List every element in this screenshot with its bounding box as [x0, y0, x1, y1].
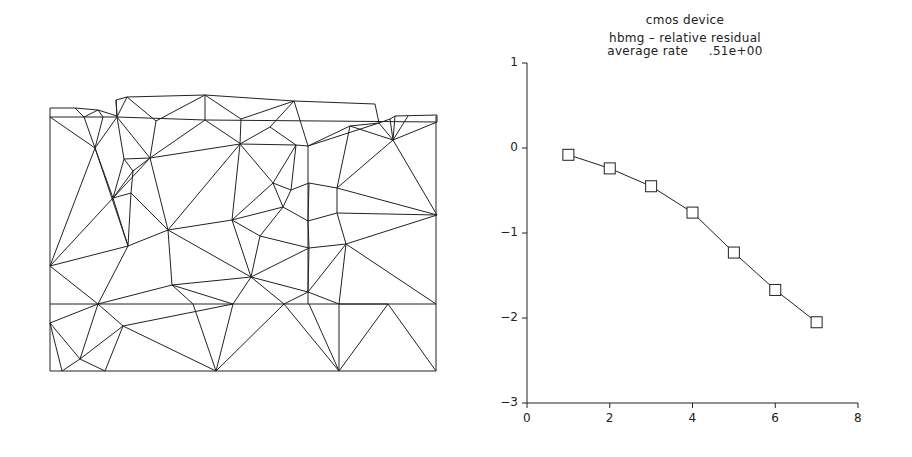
- square-marker: [604, 163, 615, 174]
- square-marker: [770, 284, 781, 295]
- square-marker: [563, 149, 574, 160]
- square-marker: [646, 181, 657, 192]
- x-tick-label: 8: [854, 411, 862, 425]
- y-tick-label: −1: [500, 225, 518, 239]
- x-tick-label: 4: [689, 411, 697, 425]
- square-marker: [687, 207, 698, 218]
- y-tick-label: 0: [510, 140, 518, 154]
- residual-chart: [0, 0, 912, 457]
- square-marker: [811, 317, 822, 328]
- y-tick-label: −3: [500, 395, 518, 409]
- x-tick-label: 6: [771, 411, 779, 425]
- x-tick-label: 0: [523, 411, 531, 425]
- y-tick-label: −2: [500, 310, 518, 324]
- y-tick-label: 1: [510, 55, 518, 69]
- x-tick-label: 2: [606, 411, 614, 425]
- square-marker: [728, 247, 739, 258]
